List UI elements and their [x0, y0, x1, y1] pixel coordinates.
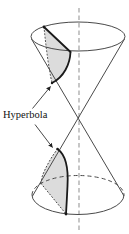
hyperbola-label: Hyperbola — [3, 109, 48, 120]
double-cone-hyperbola-diagram: Hyperbola — [0, 0, 129, 234]
arrow-to-lower-branch — [35, 125, 53, 148]
lower-vertex-dot — [56, 148, 58, 150]
lower-front-endpoint-dot — [65, 213, 68, 216]
upper-section-shade — [44, 27, 71, 83]
arrow-to-upper-branch — [33, 87, 51, 109]
upper-vertex-dot — [51, 82, 53, 84]
hyperbola-sections — [41, 27, 71, 214]
bottom-base-front-arc — [32, 195, 124, 215]
upper-back-endpoint-dot — [43, 26, 46, 29]
conic-section-figure: Hyperbola — [0, 0, 129, 234]
